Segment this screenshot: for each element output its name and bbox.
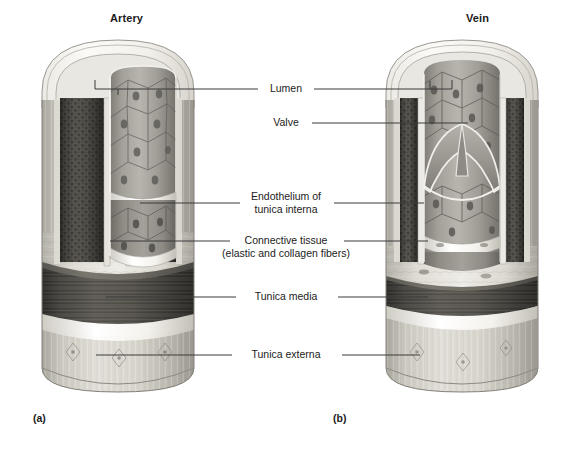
label-connective-tissue-line1: Connective tissue (222, 234, 350, 247)
label-lumen-line1: Lumen (270, 82, 302, 94)
label-connective-tissue-line2: (elastic and collagen fibers) (222, 247, 350, 260)
label-valve: Valve (273, 116, 299, 129)
panel-sublabel-b: (b) (333, 412, 346, 424)
panel-title-vein: Vein (466, 12, 489, 24)
label-lumen: Lumen (270, 82, 302, 95)
label-valve-line1: Valve (273, 116, 299, 128)
label-connective-tissue: Connective tissue (elastic and collagen … (222, 234, 350, 259)
vein-illustration (386, 40, 538, 392)
label-endothelium: Endothelium of tunica interna (251, 190, 321, 215)
vessel-illustration-svg (0, 0, 572, 449)
label-tunica-media-line1: Tunica media (255, 290, 318, 302)
panel-sublabel-a: (a) (33, 412, 46, 424)
artery-vein-diagram: Artery Vein (a) (b) Lumen Valve Endothel… (0, 0, 572, 449)
panel-title-artery: Artery (110, 12, 143, 24)
label-tunica-media: Tunica media (255, 290, 318, 303)
label-tunica-externa: Tunica externa (251, 348, 320, 361)
label-endothelium-line1: Endothelium of (251, 190, 321, 203)
label-endothelium-line2: tunica interna (251, 203, 321, 216)
label-tunica-externa-line1: Tunica externa (251, 348, 320, 360)
